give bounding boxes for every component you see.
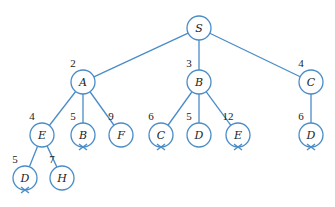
edge-AE-AED	[29, 146, 37, 167]
tree-node-AED: D5	[12, 153, 37, 193]
tree-edges	[29, 33, 311, 167]
tree-node-S: S	[187, 16, 211, 40]
search-tree-diagram: SA2B3C4E4B5F9C6D5E12D6D5H7	[0, 0, 335, 207]
node-cost: 7	[49, 153, 55, 165]
node-label: H	[56, 172, 67, 185]
tree-node-AEH: H7	[49, 153, 74, 190]
tree-node-BE: E12	[223, 110, 251, 150]
node-label: C	[307, 76, 316, 89]
node-cost: 6	[298, 110, 304, 122]
node-label: S	[195, 22, 203, 35]
node-cost: 5	[12, 153, 18, 165]
edge-S-A	[94, 33, 188, 77]
node-cost: 6	[148, 110, 154, 122]
node-cost: 9	[108, 110, 114, 122]
node-label: D	[20, 172, 30, 185]
node-label: B	[78, 129, 87, 142]
node-cost: 4	[298, 57, 304, 69]
node-label: A	[78, 76, 87, 89]
node-cost: 5	[186, 110, 192, 122]
node-cost: 3	[186, 57, 192, 69]
node-cost: 4	[29, 110, 35, 122]
tree-node-AF: F9	[108, 110, 133, 147]
node-label: B	[194, 76, 203, 89]
node-cost: 2	[70, 57, 76, 69]
tree-node-BC: C6	[148, 110, 173, 150]
node-label: E	[233, 129, 242, 142]
node-label: C	[157, 129, 166, 142]
edge-S-C	[210, 33, 300, 77]
tree-node-A: A2	[70, 57, 95, 94]
node-label: F	[116, 129, 125, 142]
tree-node-AE: E4	[29, 110, 54, 147]
node-label: D	[306, 129, 316, 142]
node-cost: 12	[223, 110, 234, 122]
node-cost: 5	[70, 110, 76, 122]
node-label: E	[37, 129, 46, 142]
node-label: D	[194, 129, 204, 142]
tree-node-C: C4	[298, 57, 323, 94]
